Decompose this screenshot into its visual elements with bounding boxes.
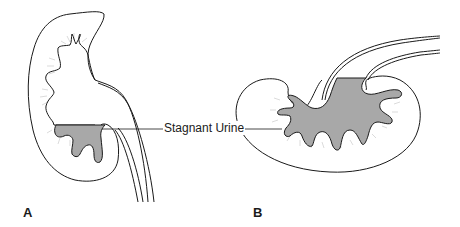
renal-pelvis-a bbox=[46, 34, 95, 125]
stagnant-urine-label: Stagnant Urine bbox=[163, 121, 245, 135]
stagnant-urine-b bbox=[278, 78, 402, 150]
panel-label-b: B bbox=[253, 205, 262, 220]
kidney-figure: Stagnant Urine A B bbox=[0, 0, 460, 227]
kidney-illustration bbox=[0, 0, 460, 227]
stagnant-urine-a bbox=[55, 125, 105, 163]
ureter-a bbox=[95, 80, 154, 202]
panel-label-a: A bbox=[23, 205, 32, 220]
